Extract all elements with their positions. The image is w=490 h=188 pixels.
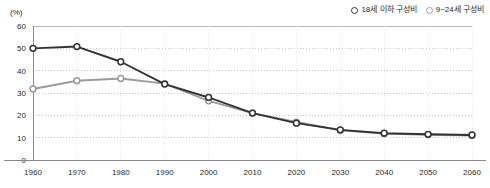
data-point-marker-series-2 bbox=[74, 78, 80, 84]
y-axis-tick-label: 60 bbox=[17, 22, 26, 31]
x-axis-tick-label: 2020 bbox=[288, 168, 306, 177]
data-point-marker-series-1 bbox=[162, 81, 168, 87]
plot-area: 0102030405060196019701980199020002010202… bbox=[0, 0, 490, 188]
x-axis-tick-label: 2000 bbox=[200, 168, 218, 177]
x-axis-tick-label: 1970 bbox=[68, 168, 86, 177]
y-axis-tick-label: 40 bbox=[17, 67, 26, 76]
chart-container: (%) 18세 이하 구성비 9~24세 구성비 010203040506019… bbox=[0, 0, 490, 188]
x-axis-tick-label: 2060 bbox=[463, 168, 481, 177]
y-axis-tick-label: 30 bbox=[17, 89, 26, 98]
x-axis-tick-label: 2040 bbox=[375, 168, 393, 177]
data-point-marker-series-1 bbox=[337, 127, 343, 133]
data-point-marker-series-1 bbox=[294, 120, 300, 126]
x-axis-tick-label: 2010 bbox=[244, 168, 262, 177]
x-axis-tick-label: 2050 bbox=[419, 168, 437, 177]
data-point-marker-series-1 bbox=[250, 110, 256, 116]
y-axis-tick-label: 10 bbox=[17, 134, 26, 143]
data-point-marker-series-1 bbox=[30, 45, 36, 51]
x-axis-tick-label: 2030 bbox=[331, 168, 349, 177]
data-point-marker-series-1 bbox=[206, 95, 212, 101]
y-axis-tick-label: 20 bbox=[17, 111, 26, 120]
data-point-marker-series-1 bbox=[425, 131, 431, 137]
data-point-marker-series-2 bbox=[30, 86, 36, 92]
data-point-marker-series-1 bbox=[469, 132, 475, 138]
chart-svg: 0102030405060196019701980199020002010202… bbox=[0, 0, 490, 188]
y-axis-tick-label: 50 bbox=[17, 44, 26, 53]
data-point-marker-series-1 bbox=[74, 44, 80, 50]
x-axis-tick-label: 1960 bbox=[24, 168, 42, 177]
data-point-marker-series-1 bbox=[381, 130, 387, 136]
x-axis-tick-label: 1990 bbox=[156, 168, 174, 177]
x-axis-tick-label: 1980 bbox=[112, 168, 130, 177]
data-point-marker-series-1 bbox=[118, 59, 124, 65]
data-point-marker-series-2 bbox=[118, 76, 124, 82]
